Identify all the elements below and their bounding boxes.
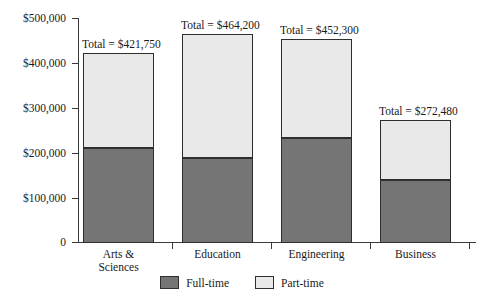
x-axis-tick — [469, 243, 470, 249]
y-axis-tick — [72, 108, 79, 109]
x-axis-category-engineering: Engineering — [281, 248, 352, 261]
chart-legend: Full-time Part-time — [0, 276, 484, 289]
bar-segment-full-time-arts-sciences — [83, 148, 154, 243]
bar-segment-full-time-business — [380, 180, 451, 243]
x-axis-category-education: Education — [182, 248, 253, 261]
y-axis-line — [78, 18, 79, 243]
legend-label-full-time: Full-time — [186, 277, 229, 289]
legend-swatch-full-time-icon — [160, 276, 179, 289]
plot-area: $500,000 $400,000 $300,000 $200,000 $100… — [0, 0, 484, 308]
x-axis-tick — [172, 243, 173, 249]
y-axis-tick — [72, 242, 79, 243]
bar-segment-part-time-engineering — [281, 39, 352, 138]
y-axis-label-400000: $400,000 — [23, 58, 66, 70]
y-axis-tick — [72, 153, 79, 154]
bar-segment-part-time-education — [182, 34, 253, 158]
y-axis-tick — [72, 18, 79, 19]
stacked-bar-chart: $500,000 $400,000 $300,000 $200,000 $100… — [0, 0, 484, 308]
bar-total-label-engineering: Total = $452,300 — [280, 24, 359, 36]
x-axis-tick — [271, 243, 272, 249]
bar-total-label-education: Total = $464,200 — [181, 19, 260, 31]
legend-label-part-time: Part-time — [281, 277, 324, 289]
legend-item-part-time: Part-time — [255, 276, 324, 289]
category-label-line1: Engineering — [281, 248, 352, 261]
bar-total-label-arts-sciences: Total = $421,750 — [82, 38, 161, 50]
bar-segment-part-time-business — [380, 120, 451, 180]
y-axis-label-100000: $100,000 — [23, 193, 66, 205]
category-label-line2: Sciences — [83, 261, 154, 274]
legend-item-full-time: Full-time — [160, 276, 229, 289]
legend-swatch-part-time-icon — [255, 276, 274, 289]
bar-segment-full-time-engineering — [281, 138, 352, 243]
category-label-line1: Arts & — [83, 248, 154, 261]
y-axis-label-0: 0 — [60, 237, 66, 249]
y-axis-label-500000: $500,000 — [23, 13, 66, 25]
y-axis-tick — [72, 63, 79, 64]
y-axis-tick — [72, 198, 79, 199]
bar-segment-full-time-education — [182, 158, 253, 243]
category-label-line1: Education — [182, 248, 253, 261]
x-axis-category-business: Business — [380, 248, 451, 261]
category-label-line1: Business — [380, 248, 451, 261]
y-axis-label-300000: $300,000 — [23, 103, 66, 115]
x-axis-tick — [370, 243, 371, 249]
y-axis-label-200000: $200,000 — [23, 148, 66, 160]
bar-total-label-business: Total = $272,480 — [379, 105, 458, 117]
x-axis-category-arts-sciences: Arts & Sciences — [83, 248, 154, 274]
bar-segment-part-time-arts-sciences — [83, 53, 154, 148]
